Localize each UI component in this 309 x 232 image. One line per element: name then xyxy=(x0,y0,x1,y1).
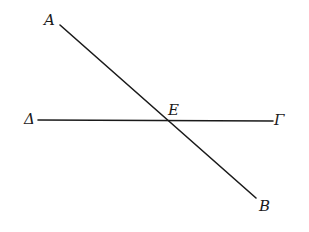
segment-AB xyxy=(60,25,256,198)
point-label-B: B xyxy=(259,199,270,214)
point-label-E: E xyxy=(168,103,179,118)
point-label-A: A xyxy=(44,13,55,28)
segment-Delta-Gamma xyxy=(38,120,273,121)
point-label-Delta: Δ xyxy=(24,112,35,127)
point-label-Gamma: Γ xyxy=(274,113,284,128)
geometry-figure: A B Δ Γ E xyxy=(0,0,309,232)
